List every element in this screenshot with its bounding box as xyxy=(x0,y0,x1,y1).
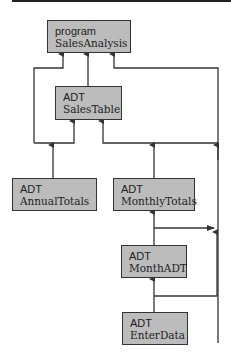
node-kind: ADT xyxy=(20,183,96,195)
node-enter-data: ADT EnterData xyxy=(122,312,188,345)
node-name: SalesAnalysis xyxy=(55,37,130,49)
node-kind: ADT xyxy=(129,250,186,262)
node-name: AnnualTotals xyxy=(20,195,96,207)
node-name: SalesTable xyxy=(63,103,121,115)
node-kind: program xyxy=(55,25,130,37)
node-name: MonthlyTotals xyxy=(121,195,194,207)
node-name: EnterData xyxy=(130,329,187,341)
node-monthly-totals: ADT MonthlyTotals xyxy=(113,178,195,211)
node-kind: ADT xyxy=(121,183,194,195)
node-name: MonthADT xyxy=(129,262,186,274)
node-kind: ADT xyxy=(130,317,187,329)
node-kind: ADT xyxy=(63,91,121,103)
node-sales-table: ADT SalesTable xyxy=(55,86,122,120)
node-month-adt: ADT MonthADT xyxy=(121,245,187,278)
node-sales-analysis: program SalesAnalysis xyxy=(47,20,131,53)
node-annual-totals: ADT AnnualTotals xyxy=(12,178,97,211)
